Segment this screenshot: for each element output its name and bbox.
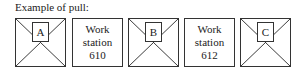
workstation-line2: station [195, 36, 224, 49]
workstation-number: 610 [83, 49, 112, 62]
workstation-line1: Work [195, 23, 224, 36]
workstation-line1: Work [83, 23, 112, 36]
kanban-box-b: B [128, 18, 179, 67]
diagram-caption: Example of pull: [15, 1, 89, 14]
workstation-box-610: Work station 610 [72, 18, 123, 67]
kanban-label-b: B [145, 22, 162, 42]
kanban-box-c: C [240, 18, 291, 67]
kanban-label-c: C [257, 22, 274, 42]
kanban-label-a: A [32, 22, 49, 42]
workstation-box-612: Work station 612 [184, 18, 235, 67]
kanban-box-a: A [15, 18, 66, 67]
workstation-line2: station [83, 36, 112, 49]
workstation-number: 612 [195, 49, 224, 62]
